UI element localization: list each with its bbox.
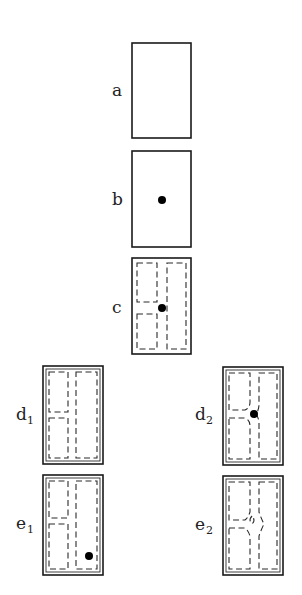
panel-e1: e1 xyxy=(16,475,103,575)
panel-c-dot-marker xyxy=(158,304,166,312)
panel-e1-label: e xyxy=(16,513,26,533)
panel-a: a xyxy=(112,43,191,138)
panel-e2-frame xyxy=(223,476,283,575)
diagram-figure: abcd1e1d2e2 xyxy=(0,0,302,595)
panel-e1-subscript: 1 xyxy=(27,523,34,536)
panels-group: abcd1e1d2e2 xyxy=(16,43,283,575)
panel-d1: d1 xyxy=(16,366,103,464)
panel-d2-label: d xyxy=(195,404,206,424)
panel-e2-subscript: 2 xyxy=(206,524,213,537)
panel-b-dot-marker xyxy=(158,196,166,204)
panel-d2-dot-marker xyxy=(250,410,258,418)
panel-d1-label: d xyxy=(16,404,27,424)
panel-a-label: a xyxy=(112,80,122,100)
panel-d1-subscript: 1 xyxy=(27,414,34,427)
panel-d2: d2 xyxy=(195,367,283,465)
panel-b: b xyxy=(112,151,191,247)
panel-e2-label: e xyxy=(195,514,205,534)
panel-c-label: c xyxy=(112,297,122,317)
panel-b-label: b xyxy=(112,189,123,209)
panel-e1-frame xyxy=(43,475,103,575)
panel-d1-frame xyxy=(43,366,103,464)
panel-d2-subscript: 2 xyxy=(206,414,213,427)
panel-e2: e2 xyxy=(195,476,283,575)
panel-c: c xyxy=(112,258,191,354)
panel-a-frame xyxy=(132,43,191,138)
panel-e1-dot-marker xyxy=(85,552,93,560)
